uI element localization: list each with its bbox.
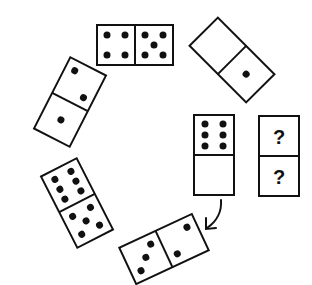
question-mark-bottom: ? [273, 166, 285, 188]
question-mark-top: ? [273, 126, 285, 148]
domino-middle [194, 115, 234, 195]
curved-arrow-icon [206, 200, 221, 229]
answer-domino: ? ? [259, 116, 299, 196]
domino-lower-left [41, 158, 113, 247]
domino-puzzle: ? ? [0, 0, 312, 285]
domino-bottom [119, 214, 208, 284]
domino-upper-right [190, 18, 275, 103]
domino-upper-left [34, 57, 106, 146]
domino-top [97, 25, 173, 65]
